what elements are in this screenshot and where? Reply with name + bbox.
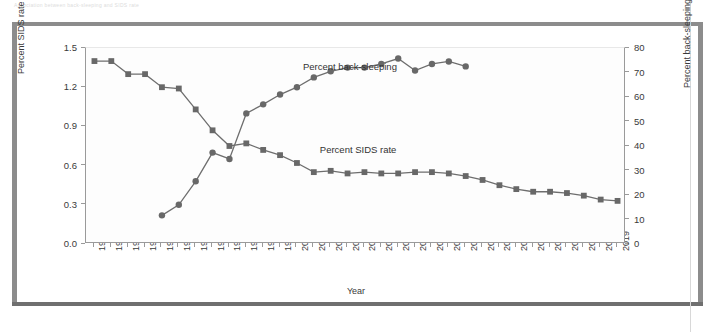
data-point-back-sleeping xyxy=(226,156,232,162)
series-label-sids-rate: Percent SIDS rate xyxy=(320,144,397,155)
y-axis-left-tick-label: 1.2 xyxy=(64,81,77,92)
y-axis-right-tick-label: 80 xyxy=(634,42,645,53)
data-point-sids-rate xyxy=(547,189,553,195)
data-point-back-sleeping xyxy=(412,67,418,73)
y-axis-left-tick-label: 1.5 xyxy=(64,42,77,53)
data-point-sids-rate xyxy=(530,189,536,195)
y-axis-right-tick-label: 0 xyxy=(634,238,639,249)
data-point-sids-rate xyxy=(446,171,452,177)
y-axis-left-title: Percent SIDS rate xyxy=(16,1,26,74)
data-point-sids-rate xyxy=(463,173,469,179)
data-point-back-sleeping xyxy=(311,74,317,80)
y-axis-left-tick-label: 0.0 xyxy=(64,238,77,249)
data-point-sids-rate xyxy=(345,171,351,177)
data-point-back-sleeping xyxy=(429,61,435,67)
data-point-sids-rate xyxy=(362,169,368,175)
data-point-sids-rate xyxy=(125,71,131,77)
data-point-sids-rate xyxy=(210,127,216,133)
data-point-sids-rate xyxy=(564,190,570,196)
data-point-sids-rate xyxy=(598,197,604,203)
figure-caption-ghost: Association between back-sleeping and SI… xyxy=(14,2,139,8)
y-axis-left-tick-label: 0.6 xyxy=(64,159,77,170)
data-point-sids-rate xyxy=(243,140,249,146)
y-axis-left-tick-label: 0.3 xyxy=(64,198,77,209)
y-axis-right-tick-label: 30 xyxy=(634,164,645,175)
data-point-sids-rate xyxy=(497,182,503,188)
chart-container: Percent SIDS rate Percent back-sleeping … xyxy=(22,32,690,300)
data-point-back-sleeping xyxy=(462,63,468,69)
data-point-sids-rate xyxy=(193,107,199,113)
data-point-sids-rate xyxy=(311,169,317,175)
data-point-sids-rate xyxy=(277,152,283,158)
data-point-back-sleeping xyxy=(209,149,215,155)
data-point-back-sleeping xyxy=(192,178,198,184)
data-point-sids-rate xyxy=(260,147,266,153)
plot-area: Percent back-sleeping Percent SIDS rate xyxy=(85,47,625,243)
data-point-sids-rate xyxy=(615,198,621,204)
series-label-back-sleeping: Percent back-sleeping xyxy=(303,61,397,72)
x-axis-title: Year xyxy=(22,286,690,296)
y-axis-right-tick-label: 40 xyxy=(634,140,645,151)
frame-rule-top xyxy=(12,22,703,26)
data-point-sids-rate xyxy=(395,171,401,177)
data-point-back-sleeping xyxy=(446,58,452,64)
data-point-sids-rate xyxy=(294,160,300,166)
y-axis-right-title: Percent back-sleeping xyxy=(682,0,692,88)
series-line-back-sleeping xyxy=(162,59,466,216)
y-axis-right-tick-label: 20 xyxy=(634,189,645,200)
frame-rule-bottom xyxy=(12,302,703,306)
data-point-sids-rate xyxy=(513,186,519,192)
y-axis-right-tick-label: 60 xyxy=(634,91,645,102)
data-point-sids-rate xyxy=(412,169,418,175)
series-line-sids-rate xyxy=(94,61,617,201)
data-point-sids-rate xyxy=(378,171,384,177)
data-point-back-sleeping xyxy=(294,84,300,90)
y-axis-right-tick-label: 70 xyxy=(634,66,645,77)
figure-frame: Association between back-sleeping and SI… xyxy=(0,0,717,332)
data-point-sids-rate xyxy=(480,177,486,183)
data-point-back-sleeping xyxy=(243,110,249,116)
data-point-sids-rate xyxy=(581,193,587,199)
data-point-back-sleeping xyxy=(176,202,182,208)
data-point-sids-rate xyxy=(227,143,233,149)
data-point-sids-rate xyxy=(429,169,435,175)
data-point-back-sleeping xyxy=(159,212,165,218)
data-point-back-sleeping xyxy=(277,91,283,97)
data-point-sids-rate xyxy=(176,86,182,92)
data-point-sids-rate xyxy=(328,168,334,174)
data-point-sids-rate xyxy=(159,84,165,90)
data-point-sids-rate xyxy=(108,58,114,64)
y-axis-right-tick-label: 10 xyxy=(634,213,645,224)
frame-rule-right xyxy=(698,26,703,306)
data-point-sids-rate xyxy=(92,58,98,64)
data-point-back-sleeping xyxy=(260,101,266,107)
y-axis-left-tick-label: 0.9 xyxy=(64,120,77,131)
data-point-sids-rate xyxy=(142,71,148,77)
y-axis-right-tick-label: 50 xyxy=(634,115,645,126)
